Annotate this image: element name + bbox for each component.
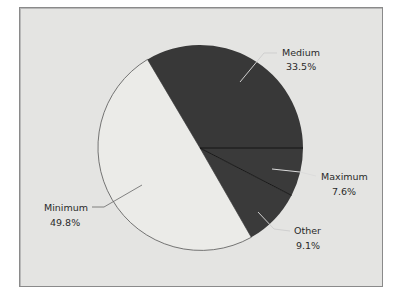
label-medium-pct: 33.5%	[286, 61, 316, 72]
label-minimum-name: Minimum	[44, 202, 88, 213]
pie-chart: Medium 33.5% Maximum 7.6% Other 9.1% Min…	[0, 0, 400, 304]
label-maximum-pct: 7.6%	[332, 186, 356, 197]
label-minimum-pct: 49.8%	[50, 217, 80, 228]
label-medium-name: Medium	[282, 47, 320, 58]
label-maximum-name: Maximum	[321, 171, 368, 182]
label-other-pct: 9.1%	[296, 240, 320, 251]
label-other-name: Other	[294, 225, 321, 236]
